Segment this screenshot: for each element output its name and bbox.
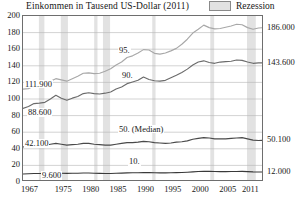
plot-svg (23, 16, 263, 181)
y-tick-label: 120 (0, 77, 20, 86)
x-tick-label: 2011 (242, 185, 259, 194)
right-value-label: 186.000 (267, 23, 295, 32)
y-tick-label: 40 (0, 144, 20, 153)
y-tick-label: 20 (0, 160, 20, 169)
recession-legend-swatch (209, 1, 231, 11)
series-line (23, 24, 263, 89)
series-annotation: 10. (128, 157, 141, 166)
recession-band (247, 16, 256, 181)
x-tick-label: 1995 (164, 185, 181, 194)
x-tick-label: 1990 (137, 185, 154, 194)
recession-band (39, 16, 44, 181)
x-tick-label: 2000 (192, 185, 209, 194)
y-tick-label: 140 (0, 61, 20, 70)
x-tick-label: 1985 (110, 185, 127, 194)
series-annotation: 50. (Median) (118, 125, 164, 134)
start-value-label: 9.600 (41, 171, 62, 180)
y-tick-label: 180 (0, 28, 20, 37)
series-annotation: 95. (118, 46, 131, 55)
start-value-label: 111.900 (24, 80, 53, 89)
recession-legend-label: Rezession (236, 1, 275, 11)
plot-area (22, 15, 263, 181)
series-annotation: 90. (121, 71, 134, 80)
right-value-label: 143.600 (267, 58, 295, 67)
series-line (23, 60, 263, 108)
series-line (23, 138, 263, 147)
chart-legend: Rezession (209, 1, 275, 11)
chart-title: Einkommen in Tausend US-Dollar (2011) (26, 1, 189, 11)
x-tick-label: 1967 (21, 185, 38, 194)
y-tick-label: 0 (0, 177, 20, 186)
y-axis-labels: 020406080100120140160180200 (0, 0, 20, 202)
x-tick-label: 1975 (55, 185, 72, 194)
recession-band (152, 16, 155, 181)
right-value-label: 12.000 (267, 167, 290, 176)
y-tick-label: 60 (0, 127, 20, 136)
start-value-label: 42.100 (24, 139, 49, 148)
chart-container: Einkommen in Tausend US-Dollar (2011) Re… (0, 0, 306, 202)
y-tick-label: 80 (0, 111, 20, 120)
y-tick-label: 160 (0, 44, 20, 53)
x-tick-label: 2005 (219, 185, 236, 194)
recession-band (103, 16, 110, 181)
y-tick-label: 100 (0, 94, 20, 103)
recession-band (210, 16, 214, 181)
start-value-label: 88.600 (27, 108, 52, 117)
right-value-label: 50.100 (267, 135, 290, 144)
y-tick-label: 200 (0, 11, 20, 20)
recession-band (94, 16, 97, 181)
x-tick-label: 1980 (82, 185, 99, 194)
